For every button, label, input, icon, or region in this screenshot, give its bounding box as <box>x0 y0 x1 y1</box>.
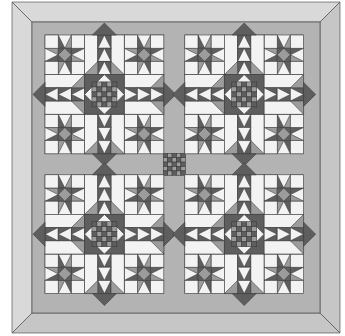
nine-patch-square <box>247 232 252 237</box>
nine-patch-square <box>92 232 97 237</box>
nine-patch-square <box>247 82 252 87</box>
nine-patch-square <box>252 232 257 237</box>
star-corner <box>185 114 198 127</box>
nine-patch-square <box>242 92 247 97</box>
nine-patch-square <box>237 237 242 242</box>
nine-patch-square <box>92 87 97 92</box>
nine-patch-square <box>107 222 112 227</box>
star-corner <box>264 114 277 127</box>
nine-patch-square <box>177 158 181 162</box>
star-corner <box>45 35 58 48</box>
nine-patch-square <box>112 97 117 102</box>
star-corner <box>71 201 84 214</box>
star-corner <box>264 141 277 154</box>
star-corner <box>264 35 277 48</box>
nine-patch-square <box>97 242 102 247</box>
nine-patch-square <box>172 167 176 171</box>
star-corner <box>211 35 224 48</box>
nine-patch-square <box>172 158 176 162</box>
nine-patch-square <box>112 222 117 227</box>
nine-patch-square <box>237 227 242 232</box>
nine-patch-square <box>163 158 167 162</box>
star-corner <box>290 254 303 267</box>
nine-patch-square <box>232 82 237 87</box>
star-corner <box>151 175 164 188</box>
nine-patch-square <box>107 82 112 87</box>
star-corner <box>124 114 137 127</box>
nine-patch-square <box>252 102 257 107</box>
nine-patch-square <box>242 222 247 227</box>
nine-patch-square <box>242 102 247 107</box>
nine-patch-square <box>181 162 185 166</box>
star-corner <box>71 35 84 48</box>
nine-patch-square <box>107 102 112 107</box>
star-corner <box>264 280 277 293</box>
nine-patch-square <box>232 97 237 102</box>
nine-patch-square <box>232 92 237 97</box>
nine-patch-square <box>252 82 257 87</box>
star-corner <box>264 175 277 188</box>
star-corner <box>211 61 224 74</box>
star-corner <box>45 141 58 154</box>
nine-patch-square <box>172 162 176 166</box>
star-corner <box>151 114 164 127</box>
nine-patch-square <box>107 237 112 242</box>
star-corner <box>45 114 58 127</box>
star-corner <box>71 61 84 74</box>
nine-patch-square <box>237 242 242 247</box>
border-right <box>320 2 340 333</box>
nine-patch-square <box>247 227 252 232</box>
nine-patch-square <box>97 87 102 92</box>
nine-patch-square <box>232 232 237 237</box>
star-corner <box>290 141 303 154</box>
nine-patch-square <box>242 82 247 87</box>
nine-patch-square <box>102 82 107 87</box>
nine-patch-square <box>92 97 97 102</box>
nine-patch-square <box>97 102 102 107</box>
star-corner <box>185 175 198 188</box>
nine-patch-square <box>181 167 185 171</box>
nine-patch-square <box>181 158 185 162</box>
nine-patch-square <box>177 153 181 157</box>
border-left <box>12 2 32 333</box>
star-corner <box>290 175 303 188</box>
star-corner <box>185 201 198 214</box>
nine-patch-square <box>92 222 97 227</box>
nine-patch-square <box>247 97 252 102</box>
nine-patch-square <box>97 97 102 102</box>
nine-patch-square <box>97 92 102 97</box>
nine-patch-square <box>177 171 181 175</box>
nine-patch-square <box>92 102 97 107</box>
nine-patch-square <box>247 222 252 227</box>
star-corner <box>151 201 164 214</box>
nine-patch-square <box>92 227 97 232</box>
nine-patch-square <box>92 82 97 87</box>
star-corner <box>45 61 58 74</box>
star-corner <box>211 141 224 154</box>
nine-patch-square <box>242 232 247 237</box>
nine-patch-square <box>242 227 247 232</box>
nine-patch-square <box>107 232 112 237</box>
star-corner <box>290 61 303 74</box>
star-corner <box>185 61 198 74</box>
star-corner <box>124 141 137 154</box>
star-corner <box>211 254 224 267</box>
nine-patch-square <box>237 232 242 237</box>
nine-patch-square <box>112 237 117 242</box>
nine-patch-square <box>237 87 242 92</box>
star-corner <box>124 201 137 214</box>
nine-patch-square <box>247 237 252 242</box>
star-corner <box>71 141 84 154</box>
nine-patch-square <box>237 92 242 97</box>
nine-patch-square <box>112 227 117 232</box>
nine-patch-square <box>252 237 257 242</box>
star-corner <box>185 254 198 267</box>
nine-patch-square <box>92 242 97 247</box>
nine-patch-square <box>232 237 237 242</box>
star-corner <box>185 141 198 154</box>
star-corner <box>71 280 84 293</box>
star-corner <box>290 201 303 214</box>
star-corner <box>264 201 277 214</box>
nine-patch-square <box>97 227 102 232</box>
nine-patch-square <box>252 222 257 227</box>
